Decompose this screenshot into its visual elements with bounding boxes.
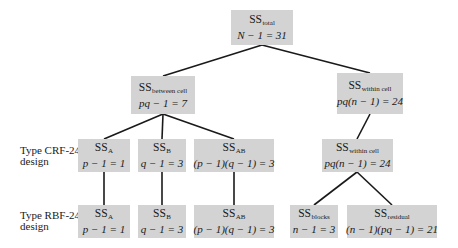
row-label-rbf: Type RBF-24 design xyxy=(20,210,80,232)
node-ss-label: SSresidual xyxy=(374,207,409,223)
row-label-line: design xyxy=(20,156,80,167)
node-ss-total: SStotal N − 1 = 31 xyxy=(231,10,293,45)
node-df-label: (p − 1)(q − 1) = 3 xyxy=(194,157,275,170)
node-ss-label: SSA xyxy=(95,207,113,223)
node-crf-ss-ab: SSAB (p − 1)(q − 1) = 3 xyxy=(194,139,274,172)
node-df-label: pq(n − 1) = 24 xyxy=(324,157,390,170)
node-rbf-ss-residual: SSresidual (n − 1)(pq − 1) = 21 xyxy=(347,205,437,238)
node-df-label: N − 1 = 31 xyxy=(237,29,287,42)
node-df-label: p − 1 = 1 xyxy=(83,223,125,236)
node-crf-ss-a: SSA p − 1 = 1 xyxy=(78,139,130,172)
node-ss-label: SSwithin cell xyxy=(336,141,379,157)
row-label-line: design xyxy=(20,221,80,232)
node-df-label: p − 1 = 1 xyxy=(83,157,125,170)
node-ss-label: SSblocks xyxy=(298,207,330,223)
row-label-crf: Type CRF-24 design xyxy=(20,145,80,167)
node-crf-ss-within-cell: SSwithin cell pq(n − 1) = 24 xyxy=(322,139,393,172)
node-ss-label: SSbetween cell xyxy=(139,81,187,97)
node-df-label: (p − 1)(q − 1) = 3 xyxy=(194,223,275,236)
node-df-label: n − 1 = 3 xyxy=(293,223,335,236)
node-df-label: q − 1 = 3 xyxy=(141,157,183,170)
node-crf-ss-b: SSB q − 1 = 3 xyxy=(138,139,186,172)
node-df-label: (n − 1)(pq − 1) = 21 xyxy=(346,223,438,236)
node-ss-label: SSA xyxy=(95,141,113,157)
node-df-label: pq(n − 1) = 24 xyxy=(337,95,403,108)
node-ss-between-cell: SSbetween cell pq − 1 = 7 xyxy=(131,76,195,114)
node-rbf-ss-blocks: SSblocks n − 1 = 3 xyxy=(290,205,338,238)
node-ss-label: SSwithin cell xyxy=(348,79,391,95)
node-ss-within-cell: SSwithin cell pq(n − 1) = 24 xyxy=(337,73,403,114)
node-ss-label: SStotal xyxy=(249,13,275,29)
node-rbf-ss-a: SSA p − 1 = 1 xyxy=(78,205,130,238)
node-ss-label: SSB xyxy=(153,141,171,157)
node-rbf-ss-ab: SSAB (p − 1)(q − 1) = 3 xyxy=(194,205,274,238)
node-ss-label: SSB xyxy=(153,207,171,223)
node-rbf-ss-b: SSB q − 1 = 3 xyxy=(138,205,186,238)
node-ss-label: SSAB xyxy=(222,207,245,223)
node-ss-label: SSAB xyxy=(222,141,245,157)
node-df-label: q − 1 = 3 xyxy=(141,223,183,236)
node-df-label: pq − 1 = 7 xyxy=(139,97,187,110)
